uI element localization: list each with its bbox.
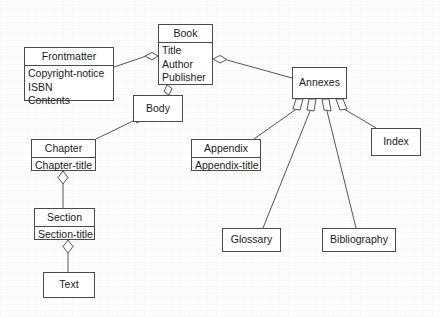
uml-class-body[interactable]: Body xyxy=(133,95,183,122)
uml-class-text[interactable]: Text xyxy=(43,272,95,298)
uml-attribute: Copyright-notice xyxy=(28,67,111,80)
uml-class-section[interactable]: Section Section-title xyxy=(34,208,95,240)
uml-attribute: Title xyxy=(162,44,210,57)
uml-diagram-canvas: Book Title Author Publisher Frontmatter … xyxy=(0,0,440,317)
uml-class-glossary[interactable]: Glossary xyxy=(222,228,281,252)
uml-class-name-text: Text xyxy=(44,273,94,297)
uml-class-bibliography[interactable]: Bibliography xyxy=(322,228,396,252)
connector-chapter-section xyxy=(58,171,68,208)
uml-attributes-book: Title Author Publisher xyxy=(159,43,212,86)
uml-class-name-appendix: Appendix xyxy=(192,140,260,158)
uml-class-name-section: Section xyxy=(35,209,94,227)
uml-class-index[interactable]: Index xyxy=(371,128,421,156)
uml-class-appendix[interactable]: Appendix Appendix-title xyxy=(191,139,261,171)
uml-attribute: Appendix-title xyxy=(195,159,258,172)
uml-attributes-section: Section-title xyxy=(35,227,94,243)
uml-attribute: ISBN xyxy=(28,81,111,94)
uml-class-name-bibliography: Bibliography xyxy=(323,229,395,251)
uml-class-annexes[interactable]: Annexes xyxy=(292,67,347,99)
connector-book-annexes xyxy=(213,56,292,79)
connector-annexes-glossary xyxy=(263,99,316,228)
uml-class-name-annexes: Annexes xyxy=(293,68,346,98)
uml-class-name-glossary: Glossary xyxy=(223,229,280,251)
uml-class-frontmatter[interactable]: Frontmatter Copyright-notice ISBN Conten… xyxy=(24,47,114,101)
uml-attribute: Publisher xyxy=(162,71,210,84)
connector-annexes-index xyxy=(336,99,376,128)
connector-annexes-appendix xyxy=(254,99,303,139)
uml-attributes-frontmatter: Copyright-notice ISBN Contents xyxy=(25,66,113,109)
uml-attribute: Author xyxy=(162,58,210,71)
uml-class-book[interactable]: Book Title Author Publisher xyxy=(158,24,213,85)
uml-class-name-frontmatter: Frontmatter xyxy=(25,48,113,66)
uml-class-name-index: Index xyxy=(372,129,420,155)
uml-attribute: Contents xyxy=(28,94,111,107)
uml-attribute: Section-title xyxy=(38,228,92,241)
uml-class-chapter[interactable]: Chapter Chapter-title xyxy=(31,139,96,171)
connector-section-text xyxy=(63,240,73,272)
connector-book-frontmatter xyxy=(114,53,158,68)
uml-class-name-body: Body xyxy=(134,96,182,121)
connector-annexes-bibliography xyxy=(322,99,356,228)
uml-class-name-book: Book xyxy=(159,25,212,43)
uml-attributes-appendix: Appendix-title xyxy=(192,158,260,174)
uml-class-name-chapter: Chapter xyxy=(32,140,95,158)
uml-attribute: Chapter-title xyxy=(35,159,93,172)
uml-attributes-chapter: Chapter-title xyxy=(32,158,95,174)
